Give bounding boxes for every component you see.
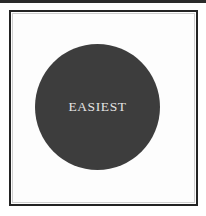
easiest-disc: EASIEST bbox=[35, 44, 160, 170]
figure-root: EASIEST bbox=[0, 0, 206, 216]
figure-frame: EASIEST bbox=[9, 10, 198, 206]
scan-edge-top bbox=[0, 0, 206, 3]
disc-label: EASIEST bbox=[68, 100, 126, 114]
